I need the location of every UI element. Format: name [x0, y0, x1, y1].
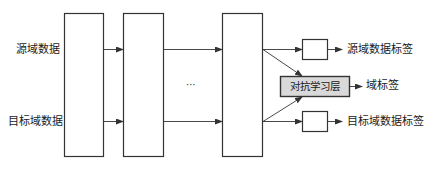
- source-classifier-box: [303, 40, 328, 60]
- input-source-label: 源域数据: [16, 44, 60, 56]
- ellipsis-more-layers: ···: [186, 79, 196, 91]
- arrow-source-to-adversarial: [263, 50, 302, 77]
- output-target-label: 目标域数据标签: [347, 116, 424, 128]
- arrow-target-to-adversarial: [263, 97, 302, 122]
- input-target-label: 目标域数据: [8, 116, 63, 128]
- target-classifier-box: [303, 112, 328, 132]
- layer-block-3: [223, 14, 263, 157]
- adversarial-layer-label: 对抗学习层: [281, 80, 349, 92]
- output-source-label: 源域数据标签: [347, 44, 413, 56]
- output-domain-label: 域标签: [366, 80, 399, 92]
- layer-block-2: [124, 14, 164, 157]
- layer-block-1: [65, 14, 104, 157]
